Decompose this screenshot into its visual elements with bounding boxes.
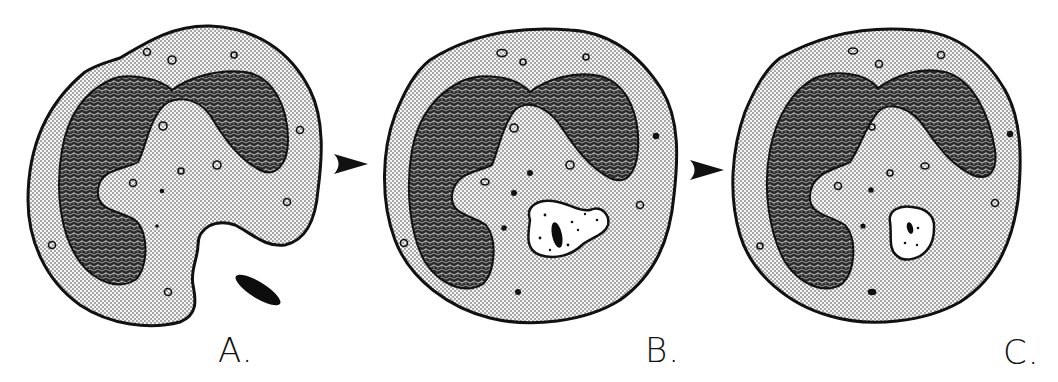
panel-label-a: A. [218,330,253,370]
cell-b [384,29,676,323]
panel-label-b: B. [645,330,680,370]
arrowhead-right-icon [690,160,724,180]
phagocytosis-diagram [0,0,1058,382]
cell-a [28,26,321,326]
bacterium-icon [232,269,285,310]
panel-label-c: C. [1003,332,1040,372]
cell-c [733,29,1020,322]
arrowhead-right-icon [334,154,368,174]
